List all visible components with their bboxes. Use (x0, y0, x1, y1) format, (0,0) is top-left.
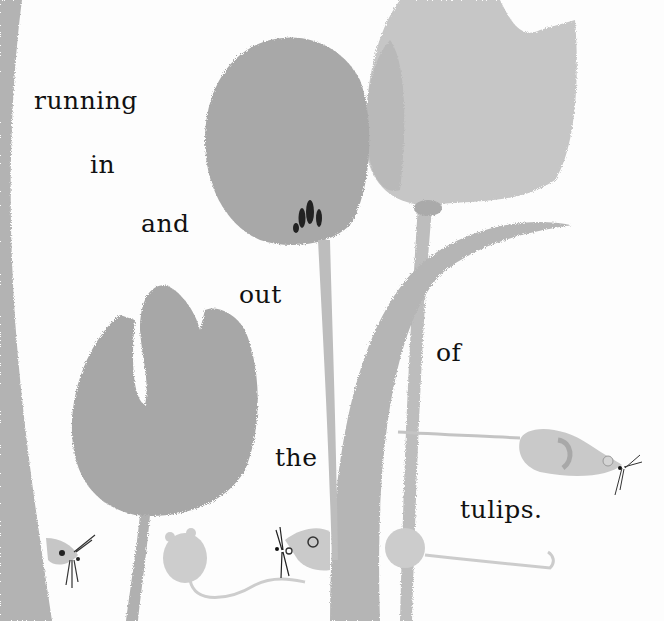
story-word: and (141, 211, 190, 236)
story-word: tulips. (460, 497, 542, 522)
mouse-peeking-left (46, 535, 95, 588)
lower-left-tulip-stem (126, 515, 150, 621)
story-word: in (90, 152, 115, 177)
mouse-back-view (163, 528, 305, 598)
story-word: running (34, 88, 138, 113)
mouse-behind-stem (385, 528, 553, 568)
top-right-tulip (366, 0, 577, 205)
center-tulip (205, 37, 369, 245)
story-word: of (436, 340, 461, 365)
story-word: the (275, 445, 317, 470)
picture-book-page: running in and out of the tulips. (0, 0, 664, 621)
center-tulip-stem (318, 240, 338, 560)
mouse-right-running (398, 429, 642, 495)
lower-left-tulip (72, 285, 258, 516)
mouse-peeking-center (275, 527, 330, 578)
story-word: out (239, 282, 282, 307)
curved-leaf (330, 222, 572, 621)
